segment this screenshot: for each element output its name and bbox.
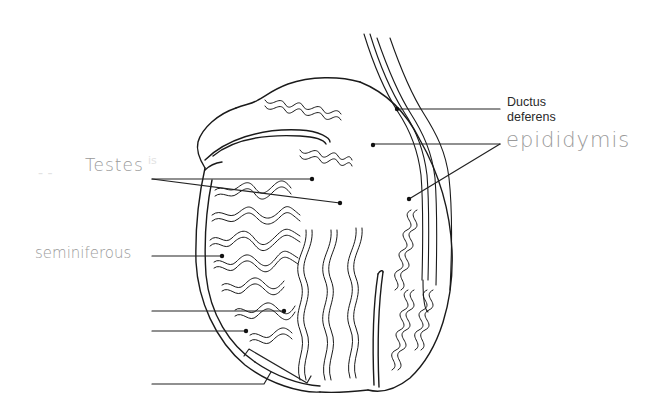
blank-answer-2[interactable] (60, 322, 150, 338)
erased-mark-right: is (148, 154, 157, 167)
leader-blank-3 (152, 372, 271, 384)
label-seminiferous: seminiferous (35, 244, 131, 262)
testis-capsule (196, 78, 452, 393)
testis-illustration (0, 0, 654, 411)
label-ductus-line2: deferens (507, 110, 556, 125)
label-testes: Testes (85, 155, 144, 175)
label-ductus-deferens: Ductus deferens (507, 95, 556, 125)
leader-lines (152, 109, 500, 384)
leader-dots (220, 107, 411, 333)
diagram-canvas: Ductus deferens epididymis Testes semini… (0, 0, 654, 411)
erased-mark-left: - - (38, 165, 53, 181)
blank-answer-3[interactable] (60, 375, 150, 391)
label-epididymis: epididymis (506, 128, 630, 152)
label-ductus-line1: Ductus (507, 95, 556, 110)
ductus-deferens-drawing (364, 34, 451, 312)
seminiferous-tubules-drawing (210, 100, 433, 380)
blank-answer-1[interactable] (60, 302, 150, 318)
